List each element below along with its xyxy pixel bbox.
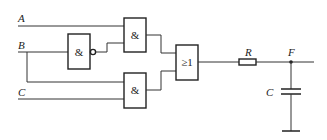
and-gate-1: &	[124, 18, 146, 52]
nand-symbol: &	[75, 46, 84, 58]
input-label-c: C	[18, 86, 26, 98]
wire-and1-out	[146, 35, 176, 53]
or-gate: ≥1	[176, 45, 198, 80]
input-label-a: A	[17, 12, 25, 24]
output-label-f: F	[287, 46, 295, 58]
input-label-b: B	[18, 39, 25, 51]
or-symbol: ≥1	[181, 56, 193, 68]
wire-nand-out	[96, 43, 124, 52]
capacitor-label: C	[266, 86, 274, 98]
resistor-label: R	[244, 46, 252, 58]
nand-gate: &	[68, 34, 96, 69]
inversion-bubble-icon	[90, 49, 95, 54]
logic-circuit-diagram: A B C & & & ≥1 R F C	[0, 0, 327, 140]
and1-symbol: &	[131, 29, 140, 41]
resistor-icon	[239, 59, 256, 65]
and-gate-2: &	[124, 73, 146, 108]
and2-symbol: &	[131, 84, 140, 96]
wire-and2-out	[146, 71, 176, 90]
